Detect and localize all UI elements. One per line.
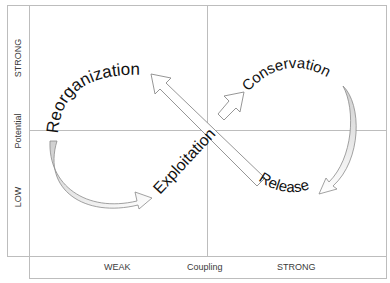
adaptive-cycle-figure: Reorganization Conservation Release Expl… bbox=[0, 0, 390, 283]
phase-label-release: Release bbox=[256, 168, 310, 195]
phase-label-exploitation: Exploitation bbox=[150, 125, 219, 197]
phase-label-reorganization: Reorganization bbox=[43, 60, 140, 135]
short-arrow-to-conservation-icon bbox=[218, 92, 244, 120]
curved-arrow-right-icon bbox=[319, 86, 356, 194]
phase-label-conservation: Conservation bbox=[238, 54, 333, 94]
curved-arrow-left-icon bbox=[50, 141, 152, 209]
